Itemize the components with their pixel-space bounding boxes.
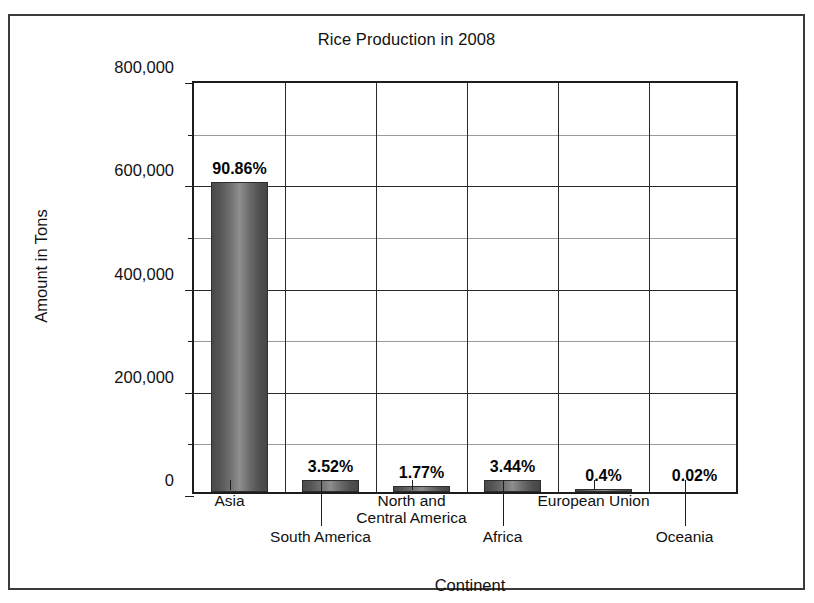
gridline-vertical bbox=[376, 83, 377, 492]
y-tick-minor-3 bbox=[188, 444, 194, 445]
x-category-label-0: Asia bbox=[214, 492, 244, 509]
gridline-major-horizontal bbox=[194, 393, 736, 394]
y-tick-label-2: 400,000 bbox=[4, 264, 174, 283]
bar-1[interactable] bbox=[302, 480, 358, 492]
x-tick-leader-1 bbox=[321, 480, 322, 526]
bar-value-label-0: 90.86% bbox=[194, 160, 285, 178]
y-tick-minor-0 bbox=[188, 135, 194, 136]
bar-3[interactable] bbox=[484, 480, 540, 492]
gridline-major-horizontal bbox=[194, 290, 736, 291]
y-tick-major-1 bbox=[185, 186, 194, 187]
gridline-minor-horizontal bbox=[194, 341, 736, 342]
y-tick-label-0: 800,000 bbox=[4, 58, 174, 77]
gridline-vertical bbox=[467, 83, 468, 492]
x-tick-leader-4 bbox=[594, 480, 595, 490]
y-tick-minor-2 bbox=[188, 341, 194, 342]
x-tick-leader-3 bbox=[503, 480, 504, 526]
y-tick-major-2 bbox=[185, 290, 194, 291]
y-tick-label-1: 600,000 bbox=[4, 161, 174, 180]
bar-value-label-2: 1.77% bbox=[376, 464, 467, 482]
x-tick-leader-5 bbox=[685, 480, 686, 526]
bar-value-label-1: 3.52% bbox=[285, 458, 376, 476]
y-tick-minor-1 bbox=[188, 238, 194, 239]
x-tick-leader-2 bbox=[412, 480, 413, 490]
gridline-vertical bbox=[649, 83, 650, 492]
plot-inner: 90.86%3.52%1.77%3.44%0.4%0.02% bbox=[194, 83, 736, 492]
x-axis-title: Continent bbox=[190, 576, 750, 595]
x-category-label-1: South America bbox=[270, 528, 371, 545]
x-category-label-3: Africa bbox=[483, 528, 523, 545]
bar-value-label-4: 0.4% bbox=[558, 467, 649, 485]
y-tick-label-3: 200,000 bbox=[4, 367, 174, 386]
figure-frame: Rice Production in 2008 Amount in Tons 9… bbox=[8, 14, 805, 590]
bar-value-label-5: 0.02% bbox=[649, 467, 740, 485]
x-category-label-2: North and Central America bbox=[356, 492, 466, 526]
plot-area: 90.86%3.52%1.77%3.44%0.4%0.02% bbox=[192, 81, 738, 494]
bar-value-label-3: 3.44% bbox=[467, 458, 558, 476]
bar-0[interactable] bbox=[211, 182, 267, 492]
gridline-minor-horizontal bbox=[194, 444, 736, 445]
gridline-major-horizontal bbox=[194, 186, 736, 187]
gridline-minor-horizontal bbox=[194, 238, 736, 239]
gridline-vertical bbox=[285, 83, 286, 492]
x-category-label-5: Oceania bbox=[656, 528, 714, 545]
x-tick-leader-0 bbox=[230, 480, 231, 490]
gridline-vertical bbox=[558, 83, 559, 492]
x-category-label-4: European Union bbox=[537, 492, 649, 509]
y-tick-major-3 bbox=[185, 393, 194, 394]
gridline-minor-horizontal bbox=[194, 135, 736, 136]
y-tick-label-4: 0 bbox=[4, 471, 174, 490]
y-tick-major-4 bbox=[185, 496, 194, 497]
y-tick-major-0 bbox=[185, 83, 194, 84]
chart-title: Rice Production in 2008 bbox=[10, 30, 803, 49]
